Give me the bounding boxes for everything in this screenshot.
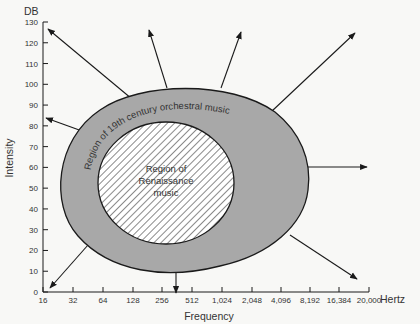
x-axis-label: Frequency bbox=[184, 310, 234, 322]
svg-text:Region of: Region of bbox=[146, 163, 187, 174]
y-tick-label: 80 bbox=[29, 122, 38, 131]
x-tick-label: 64 bbox=[99, 296, 108, 305]
svg-text:Renaissance: Renaissance bbox=[139, 175, 194, 186]
y-tick-label: 90 bbox=[29, 101, 38, 110]
y-tick-label: 10 bbox=[29, 267, 38, 276]
y-axis-label: Intensity bbox=[3, 138, 15, 178]
y-tick-label: 50 bbox=[29, 184, 38, 193]
x-tick-label: 1,024 bbox=[212, 296, 233, 305]
x-axis-ticks: 1632641282565121,0242,0484,0968,19216,38… bbox=[39, 287, 382, 305]
x-tick-label: 2,048 bbox=[242, 296, 263, 305]
x-axis-unit: Hertz bbox=[380, 293, 405, 305]
y-tick-label: 120 bbox=[25, 39, 39, 48]
arrow-up-left bbox=[48, 29, 132, 99]
arrow-down-right bbox=[290, 235, 357, 279]
arrow-up-2 bbox=[221, 32, 241, 88]
y-tick-label: 60 bbox=[29, 163, 38, 172]
arrow-left bbox=[46, 118, 82, 131]
x-tick-label: 512 bbox=[185, 296, 199, 305]
svg-text:music: music bbox=[154, 187, 179, 198]
x-tick-label: 32 bbox=[69, 296, 78, 305]
y-tick-label: 100 bbox=[25, 80, 39, 89]
y-axis-ticks: 0102030405060708090100110120130 bbox=[25, 18, 48, 297]
x-tick-label: 20,000 bbox=[357, 296, 382, 305]
x-tick-label: 4,096 bbox=[271, 296, 292, 305]
y-tick-label: 130 bbox=[25, 18, 39, 27]
x-tick-label: 256 bbox=[155, 296, 169, 305]
y-tick-label: 30 bbox=[29, 226, 38, 235]
x-tick-label: 8,192 bbox=[300, 296, 321, 305]
x-tick-label: 16 bbox=[39, 296, 48, 305]
music-range-diagram: Region of 19th century orchestral music … bbox=[0, 0, 420, 324]
y-tick-label: 110 bbox=[25, 60, 38, 69]
y-tick-label: 40 bbox=[29, 205, 38, 214]
y-tick-label: 70 bbox=[29, 143, 38, 152]
x-tick-label: 128 bbox=[126, 296, 140, 305]
y-axis-unit: DB bbox=[24, 5, 39, 17]
arrow-up-1 bbox=[149, 30, 167, 88]
arrow-down-left bbox=[50, 245, 88, 288]
arrow-up-right bbox=[272, 33, 355, 111]
x-tick-label: 16,384 bbox=[327, 296, 352, 305]
y-tick-label: 20 bbox=[29, 246, 38, 255]
